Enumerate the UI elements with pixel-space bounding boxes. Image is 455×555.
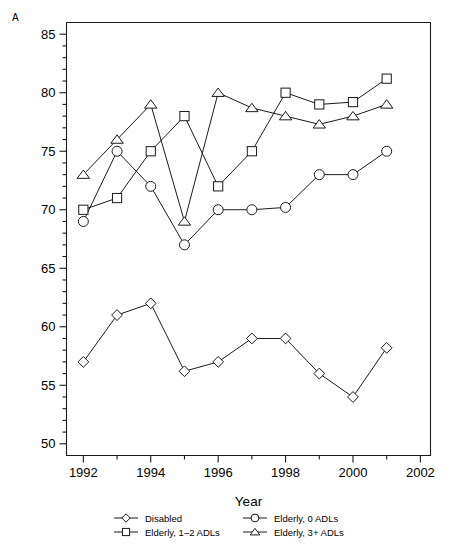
square-marker xyxy=(122,528,129,535)
diamond-marker xyxy=(112,310,123,321)
series-triangle xyxy=(77,88,393,225)
diamond-marker xyxy=(213,356,224,367)
diamond-marker xyxy=(122,514,130,522)
x-axis-title-text: Year xyxy=(235,494,263,509)
legend-item: Elderly, 1–2 ADLs xyxy=(114,527,220,538)
square-marker xyxy=(315,100,324,109)
legend-item: Elderly, 3+ ADLs xyxy=(243,527,344,538)
square-marker xyxy=(112,193,121,202)
y-axis-tick-labels: 5055606570758085 xyxy=(41,27,55,452)
y-tick-label: 55 xyxy=(41,378,55,393)
series-line xyxy=(83,303,386,397)
plot-frame xyxy=(67,23,431,456)
circle-marker xyxy=(251,514,259,522)
x-tick-label: 2002 xyxy=(406,465,435,480)
legend-label: Elderly, 3+ ADLs xyxy=(274,527,344,538)
legend-item: Elderly, 0 ADLs xyxy=(243,513,338,524)
series-line xyxy=(83,79,386,210)
triangle-marker xyxy=(246,103,258,111)
x-axis-ticks xyxy=(83,456,420,463)
square-marker xyxy=(247,147,256,156)
legend-item: Disabled xyxy=(114,513,182,524)
legend-label: Elderly, 0 ADLs xyxy=(274,513,338,524)
diamond-marker xyxy=(78,356,89,367)
diamond-marker xyxy=(145,298,156,309)
y-axis-ticks xyxy=(60,34,67,444)
triangle-marker xyxy=(279,111,291,119)
data-series-group xyxy=(77,74,393,402)
series-diamond xyxy=(78,298,392,402)
circle-marker xyxy=(247,205,257,215)
x-tick-label: 1996 xyxy=(204,465,233,480)
triangle-marker xyxy=(347,111,359,119)
y-tick-label: 65 xyxy=(41,261,55,276)
square-marker xyxy=(79,205,88,214)
circle-marker xyxy=(213,205,223,215)
x-tick-label: 2000 xyxy=(339,465,368,480)
series-circle xyxy=(78,146,391,250)
square-marker xyxy=(382,74,391,83)
legend-label: Elderly, 1–2 ADLs xyxy=(145,527,220,538)
circle-marker xyxy=(146,181,156,191)
x-axis-tick-labels: 199219941996199820002002 xyxy=(69,465,435,480)
circle-marker xyxy=(348,170,358,180)
series-square xyxy=(79,74,392,214)
y-tick-label: 50 xyxy=(41,436,55,451)
square-marker xyxy=(214,182,223,191)
y-tick-label: 85 xyxy=(41,27,55,42)
circle-marker xyxy=(179,240,189,250)
x-axis-title: Year xyxy=(235,494,263,509)
diamond-marker xyxy=(179,366,190,377)
panel-label: A xyxy=(12,12,19,23)
circle-marker xyxy=(112,146,122,156)
series-line xyxy=(83,93,386,222)
y-tick-label: 70 xyxy=(41,202,55,217)
chart-figure: A 5055606570758085 199219941996199820002… xyxy=(0,0,455,555)
triangle-marker xyxy=(111,135,123,143)
chart-legend: DisabledElderly, 0 ADLsElderly, 1–2 ADLs… xyxy=(114,513,344,538)
y-tick-label: 60 xyxy=(41,319,55,334)
square-marker xyxy=(180,112,189,121)
legend-label: Disabled xyxy=(145,513,182,524)
x-tick-label: 1994 xyxy=(136,465,165,480)
triangle-marker xyxy=(313,120,325,128)
circle-marker xyxy=(382,146,392,156)
x-tick-label: 1992 xyxy=(69,465,98,480)
triangle-marker xyxy=(212,88,224,96)
y-tick-label: 80 xyxy=(41,85,55,100)
triangle-marker xyxy=(145,100,157,108)
diamond-marker xyxy=(246,333,257,344)
line-chart-svg: 5055606570758085 19921994199619982000200… xyxy=(0,0,455,555)
triangle-marker xyxy=(178,217,190,225)
square-marker xyxy=(146,147,155,156)
circle-marker xyxy=(78,216,88,226)
square-marker xyxy=(281,88,290,97)
triangle-marker xyxy=(380,100,392,108)
circle-marker xyxy=(314,170,324,180)
triangle-marker xyxy=(77,170,89,178)
diamond-marker xyxy=(381,342,392,353)
series-line xyxy=(83,151,386,245)
y-tick-label: 75 xyxy=(41,144,55,159)
circle-marker xyxy=(281,202,291,212)
x-tick-label: 1998 xyxy=(271,465,300,480)
square-marker xyxy=(348,97,357,106)
diamond-marker xyxy=(348,392,359,403)
